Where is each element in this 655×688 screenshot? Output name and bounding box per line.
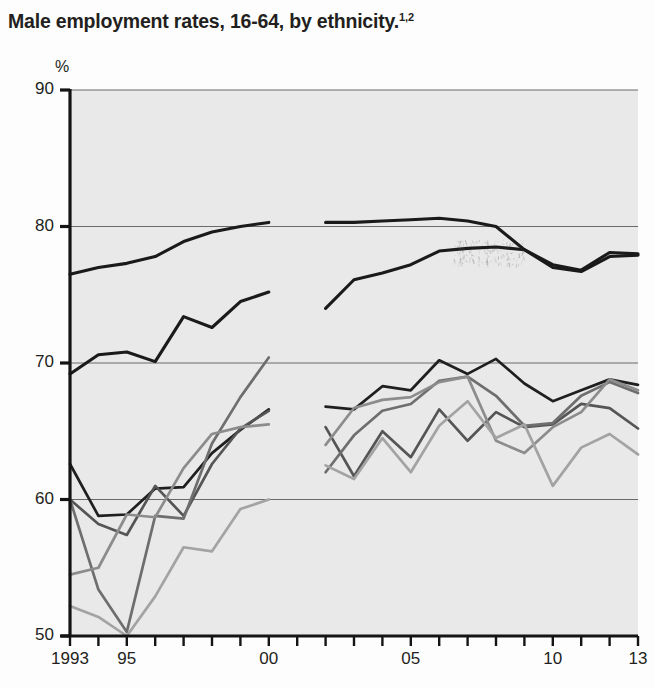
x-axis-tick-label: 05 [381,649,441,669]
x-axis-tick-label: 1993 [40,649,100,669]
plot-area [0,0,655,688]
y-axis-tick-label: 60 [14,489,54,509]
x-axis-tick-label: 10 [523,649,583,669]
x-axis-tick-label: 13 [608,649,655,669]
x-axis-tick-label: 95 [97,649,157,669]
y-axis-tick-label: 70 [14,352,54,372]
chart-svg [0,0,655,688]
y-axis-tick-label: 50 [14,625,54,645]
y-axis-tick-label: 90 [14,79,54,99]
y-axis-tick-label: 80 [14,216,54,236]
chart-page: Male employment rates, 16-64, by ethnici… [0,0,655,688]
x-axis-tick-label: 00 [239,649,299,669]
